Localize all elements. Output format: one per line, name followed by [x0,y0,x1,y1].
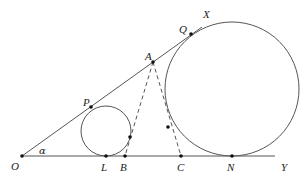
label-l: L [100,161,107,173]
segment-ab [125,62,153,156]
label-y: Y [281,161,289,173]
point-o [20,154,24,158]
label-x: X [202,8,211,20]
label-q: Q [179,23,187,35]
large-circle [165,22,299,156]
point-b [123,154,127,158]
label-c: C [177,161,185,173]
geometry-diagram: O α L B C N Y X Q A P [0,0,304,187]
point-tangent-large [166,125,170,129]
point-p [89,105,93,109]
label-p: P [82,96,90,108]
label-alpha: α [39,145,46,156]
label-n: N [226,161,235,173]
point-n [230,154,234,158]
point-c [179,154,183,158]
label-b: B [120,161,127,173]
label-o: O [11,160,19,172]
label-a: A [144,50,152,62]
small-circle [81,106,131,156]
segment-ac [153,62,181,156]
point-q [189,32,193,36]
point-l [104,154,108,158]
point-tangent-small [128,135,132,139]
point-a [151,60,155,64]
